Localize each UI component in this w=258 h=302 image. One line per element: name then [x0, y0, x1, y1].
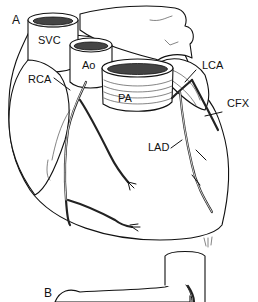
panel-label-a: A — [12, 14, 20, 26]
panel-label-b: B — [44, 287, 52, 299]
label-rca: RCA — [28, 74, 51, 85]
label-svc: SVC — [38, 35, 61, 46]
label-lca: LCA — [202, 60, 223, 71]
label-cfx: CFX — [227, 98, 249, 109]
label-pa: PA — [118, 93, 132, 104]
heart-diagram: A SVC Ao RCA PA LCA CFX LAD B — [0, 0, 258, 302]
label-lad: LAD — [148, 142, 169, 153]
label-ao: Ao — [82, 60, 95, 71]
